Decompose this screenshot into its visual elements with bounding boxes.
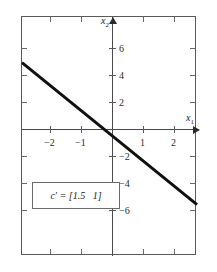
cost-vector-annotation-text: c′ = [1.5 1] [50, 191, 101, 201]
x-axis-label: x1 [186, 113, 194, 126]
y-axis-label: x2 [101, 16, 109, 29]
plot-frame: −2 −1 1 2 6 4 2 −2 −4 −6 x2 x1 c′ = [1.5… [21, 16, 196, 255]
cost-vector-annotation-box: c′ = [1.5 1] [32, 182, 120, 209]
y-axis-label-subscript: 2 [105, 21, 109, 29]
figure-canvas: −2 −1 1 2 6 4 2 −2 −4 −6 x2 x1 c′ = [1.5… [0, 0, 217, 272]
objective-function-line [22, 17, 197, 256]
x-axis-label-subscript: 1 [190, 118, 194, 126]
